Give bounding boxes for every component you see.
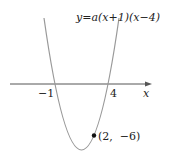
root-label-4: 4	[110, 87, 117, 100]
root-label-minus-1: −1	[38, 87, 54, 100]
equation-label: y=a(x+1)(x−4)	[75, 11, 160, 24]
point-marker	[92, 133, 96, 137]
x-axis-label: x	[143, 87, 150, 100]
point-label: (2, −6)	[98, 130, 140, 143]
parabola-diagram: y=a(x+1)(x−4) −1 4 x (2, −6)	[0, 0, 175, 160]
x-axis-arrow-icon	[145, 82, 152, 87]
